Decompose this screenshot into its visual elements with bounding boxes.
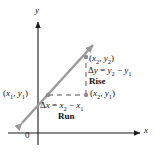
point-label-x1y1: (x1, y1) xyxy=(3,89,28,100)
point-label-x2y1: (x2, y1) xyxy=(90,89,115,100)
paren-close: ) xyxy=(111,53,114,63)
point-marker-x1y1 xyxy=(46,93,50,97)
run-label: Run xyxy=(58,112,75,121)
point-label-x2y2: (x2, y2) xyxy=(89,54,114,65)
sub-1: 1 xyxy=(128,70,131,77)
sub-1: 1 xyxy=(80,105,83,112)
slope-diagram: y x 0 (x1, y1) (x2, y2) (x2, y1) Δy = y2… xyxy=(0,0,154,152)
paren-close: ) xyxy=(112,88,115,98)
point-marker-x2y2 xyxy=(84,55,88,59)
equals-sign: = xyxy=(50,100,60,110)
origin-label: 0 xyxy=(25,131,30,140)
y-axis-label: y xyxy=(35,6,39,15)
minus-sign: − xyxy=(115,65,125,75)
rise-label: Rise xyxy=(89,77,106,86)
paren-close: ) xyxy=(25,88,28,98)
x-axis-label: x xyxy=(144,126,148,135)
minus-sign: − xyxy=(67,100,77,110)
point-marker-x2y1 xyxy=(84,93,88,97)
equals-sign: = xyxy=(98,65,108,75)
